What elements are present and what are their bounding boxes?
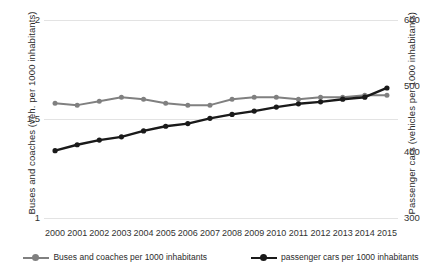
data-point (185, 103, 190, 108)
data-point (296, 97, 301, 102)
chart-container: Buses and coaches (veh. per 1000 inhabit… (0, 0, 442, 276)
legend-marker-cars-icon (251, 253, 277, 262)
data-point (119, 95, 124, 100)
data-point (97, 99, 102, 104)
data-point (141, 128, 146, 133)
gridline (44, 218, 398, 219)
data-point (296, 101, 301, 106)
data-point (185, 121, 190, 126)
data-point (274, 105, 279, 110)
plot-area (44, 20, 398, 218)
legend-label-buses: Buses and coaches per 1000 inhabitants (53, 252, 207, 262)
data-point (207, 116, 212, 121)
y-axis-right-tick-label: 400 (404, 146, 434, 157)
data-point (230, 97, 235, 102)
data-point (252, 108, 257, 113)
data-point (75, 142, 80, 147)
y-axis-left-tick-label: 2 (14, 14, 40, 25)
data-point (318, 95, 323, 100)
data-point (384, 93, 389, 98)
legend-item-buses[interactable]: Buses and coaches per 1000 inhabitants (23, 252, 207, 262)
data-point (52, 148, 57, 153)
data-point (75, 103, 80, 108)
data-point (53, 101, 58, 106)
data-point (141, 97, 146, 102)
data-point (97, 138, 102, 143)
y-axis-left-tick-label: 1,5 (14, 113, 40, 124)
chart-legend: Buses and coaches per 1000 inhabitants p… (0, 252, 442, 262)
y-axis-right-tick-label: 600 (404, 14, 434, 25)
legend-marker-buses-icon (23, 253, 49, 262)
data-point (119, 134, 124, 139)
data-point (384, 85, 389, 90)
y-axis-right-title: Passenger cars (vehicles per 1000 inhabi… (406, 15, 417, 215)
y-axis-right-tick-label: 500 (404, 80, 434, 91)
x-axis-tick-label: 2015 (374, 228, 400, 238)
data-point (229, 112, 234, 117)
legend-label-cars: passenger cars per 1000 inhabitants (281, 252, 419, 262)
data-point (362, 95, 367, 100)
series-layer (44, 20, 398, 218)
data-point (252, 95, 257, 100)
data-point (318, 99, 323, 104)
legend-item-cars[interactable]: passenger cars per 1000 inhabitants (251, 252, 419, 262)
y-axis-left-tick-label: 1 (14, 212, 40, 223)
data-point (163, 101, 168, 106)
y-axis-right-tick-label: 300 (404, 212, 434, 223)
data-point (340, 97, 345, 102)
data-point (163, 124, 168, 129)
data-point (207, 103, 212, 108)
data-point (274, 95, 279, 100)
